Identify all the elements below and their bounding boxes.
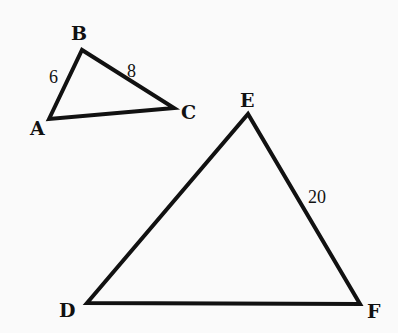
vertex-label-f: F [367, 300, 381, 322]
vertex-label-b: B [71, 22, 87, 44]
diagram-canvas: A B C 6 8 D E F 20 [0, 0, 398, 333]
triangle-abc [49, 50, 174, 119]
vertex-label-c: C [181, 101, 196, 123]
side-label-ef: 20 [308, 187, 326, 207]
vertex-label-a: A [29, 117, 45, 139]
triangle-def [87, 114, 360, 304]
vertex-label-d: D [59, 299, 75, 321]
side-label-ab: 6 [49, 67, 58, 87]
vertex-label-e: E [240, 89, 254, 111]
side-label-bc: 8 [127, 61, 136, 81]
